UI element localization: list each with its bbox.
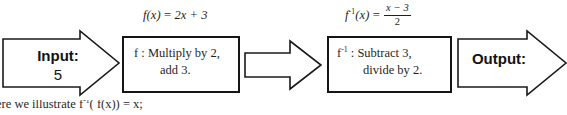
formula-f-inverse: f-1(x) = x − 3 2: [345, 2, 412, 28]
formula-f-argument: (x): [147, 8, 161, 22]
process-box-f-inverse-line2: divide by 2.: [337, 62, 422, 79]
formula-f-equals: =: [164, 8, 171, 22]
middle-arrow-shape: [245, 41, 321, 89]
input-arrow-label: Input: 5: [22, 47, 94, 84]
input-label-text: Input:: [37, 47, 79, 64]
process-box-f-inverse-exponent: -1: [341, 45, 347, 54]
fraction: x − 3 2: [384, 2, 411, 28]
process-box-f-line1: Multiply by 2,: [148, 46, 220, 60]
process-box-f-inverse-separator: :: [351, 46, 354, 60]
formula-f: f(x) = 2x + 3: [143, 8, 208, 23]
process-box-f-inverse-text: f-1 : Subtract 3, divide by 2.: [337, 45, 422, 79]
middle-arrow: [244, 40, 322, 90]
caption-inner: ere we illustrate f-1( f(x)) = x;: [0, 100, 143, 112]
process-box-f-symbol: f: [134, 46, 138, 60]
formula-f-inverse-argument: (x): [355, 8, 369, 22]
output-arrow-label: Output:: [463, 50, 535, 68]
caption-line: ere we illustrate f-1( f(x)) = x;: [0, 100, 147, 115]
fraction-denominator: 2: [384, 16, 411, 28]
process-box-f-inverse-line1: Subtract 3,: [357, 46, 411, 60]
output-label-text: Output:: [472, 50, 526, 67]
formula-f-rhs: 2x + 3: [174, 8, 207, 22]
fraction-numerator: x − 3: [384, 2, 411, 14]
process-box-f-separator: :: [141, 46, 144, 60]
process-box-f-text: f : Multiply by 2, add 3.: [134, 45, 220, 79]
input-value-text: 5: [22, 65, 94, 84]
formula-f-inverse-equals: =: [373, 8, 380, 22]
caption-expression-rest: ( f(x)) = x;: [90, 100, 143, 111]
caption-text-before: ere we illustrate: [0, 100, 76, 111]
process-box-f-line2: add 3.: [134, 62, 220, 79]
